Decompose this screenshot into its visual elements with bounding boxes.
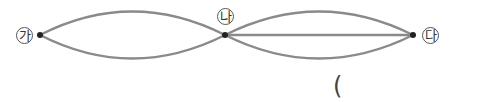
route-diagram [0, 0, 489, 102]
edge-ga-na-lower [40, 35, 225, 59]
answer-paren: ( [333, 72, 342, 100]
node-ga-dot [37, 32, 43, 38]
node-label-ga: 가 [16, 27, 33, 44]
edge-na-da-upper [225, 12, 413, 36]
node-da-dot [410, 32, 416, 38]
edge-na-da-lower [225, 35, 413, 59]
node-na-dot [222, 32, 228, 38]
edge-ga-na-upper [40, 12, 225, 36]
node-label-na: 나 [217, 8, 234, 25]
node-label-da: 다 [422, 27, 439, 44]
